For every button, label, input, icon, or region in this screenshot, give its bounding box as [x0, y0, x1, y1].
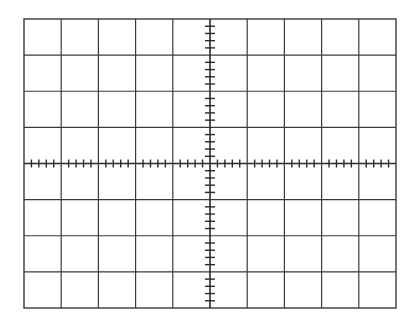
oscilloscope-graticule [0, 0, 418, 333]
